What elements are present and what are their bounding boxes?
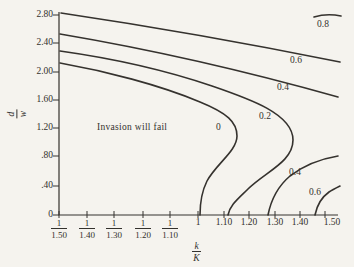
contour-label-06-upper: 0.6 — [290, 55, 302, 65]
x-tick-denominator: 1.40 — [79, 229, 95, 240]
x-tick-fraction: 11.30 — [101, 218, 127, 240]
x-tick-denominator: 1.30 — [106, 229, 122, 240]
y-tick-label: 2.80 — [9, 9, 53, 20]
x-tick-numerator: 1 — [79, 218, 95, 229]
y-axis-ticks — [53, 15, 59, 215]
x-tick-fraction: 11.40 — [74, 218, 100, 240]
y-tick-label: 2.00 — [9, 66, 53, 77]
x-axis-label-denominator: K — [192, 252, 200, 263]
x-tick-denominator: 1.20 — [135, 229, 151, 240]
y-axis-label: d w — [4, 101, 30, 127]
x-tick-denominator: 1.50 — [51, 229, 67, 240]
contour-curves — [60, 13, 341, 215]
y-axis-label-numerator: d — [6, 110, 17, 119]
contour-label-08: 0.8 — [317, 19, 329, 29]
contour-label-06-lower: 0.6 — [309, 187, 321, 197]
contour-label-00: 0 — [216, 122, 221, 132]
x-tick-label: 1.20 — [236, 217, 262, 228]
x-tick-fraction: 11.50 — [46, 218, 72, 240]
y-tick-label: .80 — [9, 150, 53, 161]
x-tick-label: 1.50 — [319, 217, 345, 228]
x-tick-denominator: 1.10 — [162, 229, 178, 240]
axis-lines — [59, 12, 338, 215]
x-tick-numerator: 1 — [51, 218, 67, 229]
contour-label-04-lower: 0.4 — [289, 167, 301, 177]
x-tick-numerator: 1 — [162, 218, 178, 229]
y-axis-label-denominator: w — [17, 110, 28, 119]
x-tick-fraction: 11.20 — [130, 218, 156, 240]
contour-label-04-upper: 0.4 — [277, 82, 289, 92]
contour-figure: 2.80 2.40 2.00 1.60 1.20 .80 .40 0 d w 1… — [0, 0, 354, 267]
x-tick-label: 1.10 — [211, 217, 237, 228]
x-tick-numerator: 1 — [135, 218, 151, 229]
contour-path-04-upper — [60, 34, 338, 97]
y-tick-label: 2.40 — [9, 37, 53, 48]
x-tick-label: 1.30 — [262, 217, 288, 228]
x-tick-label: 1.40 — [287, 217, 313, 228]
contour-label-02: 0.2 — [259, 111, 271, 121]
x-axis-label-numerator: k — [192, 241, 200, 252]
x-axis-label: k K — [188, 241, 205, 263]
contour-path-08 — [314, 15, 341, 17]
x-tick-numerator: 1 — [106, 218, 122, 229]
region-annotation: Invasion will fail — [97, 122, 167, 132]
x-tick-label: 1 — [185, 217, 211, 228]
x-tick-fraction: 11.10 — [157, 218, 183, 240]
y-tick-label: .40 — [9, 180, 53, 191]
